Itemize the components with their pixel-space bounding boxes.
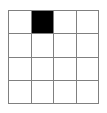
grid-cell-empty[interactable] <box>76 34 99 57</box>
grid-cell-empty[interactable] <box>31 34 54 57</box>
grid-cell-empty[interactable] <box>31 80 54 103</box>
grid-cell-empty[interactable] <box>54 34 77 57</box>
grid-cell-empty[interactable] <box>31 57 54 80</box>
grid-cell-empty[interactable] <box>76 11 99 34</box>
grid-cell-empty[interactable] <box>76 80 99 103</box>
grid-row <box>9 80 99 103</box>
grid-cell-empty[interactable] <box>54 57 77 80</box>
grid-cell-empty[interactable] <box>54 80 77 103</box>
grid-cell-empty[interactable] <box>9 34 32 57</box>
grid-cell-empty[interactable] <box>9 80 32 103</box>
grid-figure <box>0 0 107 113</box>
grid-body <box>9 11 99 104</box>
grid-cell-empty[interactable] <box>9 57 32 80</box>
grid-row <box>9 34 99 57</box>
grid-cell-empty[interactable] <box>9 11 32 34</box>
grid-row <box>9 11 99 34</box>
grid-cell-filled[interactable] <box>31 11 54 34</box>
grid-table <box>8 10 99 104</box>
grid-row <box>9 57 99 80</box>
grid-cell-empty[interactable] <box>54 11 77 34</box>
grid-cell-empty[interactable] <box>76 57 99 80</box>
